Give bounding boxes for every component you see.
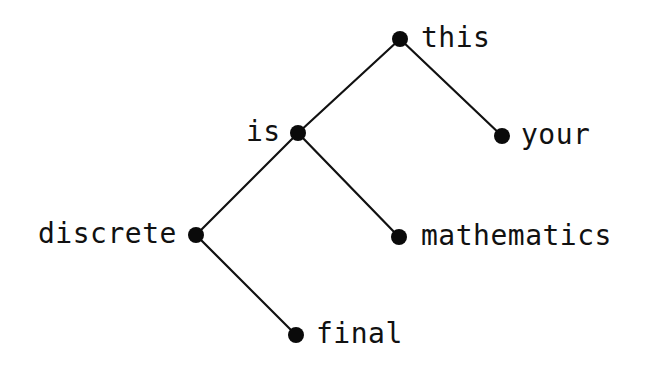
node-label-is: is [246, 118, 281, 146]
node-label-your: your [521, 121, 590, 149]
node-discrete [188, 227, 204, 243]
node-final [288, 327, 304, 343]
tree-edges [196, 39, 502, 335]
tree-diagram [0, 0, 668, 371]
edge-is-mathematics [298, 133, 399, 237]
node-mathematics [391, 229, 407, 245]
edge-is-discrete [196, 133, 298, 235]
node-label-final: final [316, 320, 403, 348]
node-is [290, 125, 306, 141]
node-your [494, 128, 510, 144]
node-this [392, 31, 408, 47]
edge-discrete-final [196, 235, 296, 335]
node-label-this: this [421, 24, 490, 52]
node-label-discrete: discrete [38, 220, 177, 248]
edge-this-is [298, 39, 400, 133]
node-label-mathematics: mathematics [421, 222, 612, 250]
